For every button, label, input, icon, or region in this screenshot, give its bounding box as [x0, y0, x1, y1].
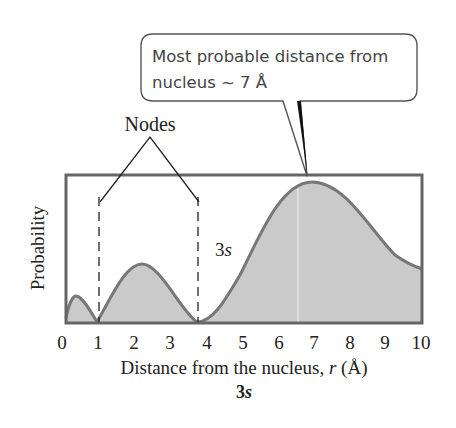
x-tick-7: 7 — [309, 332, 319, 353]
x-tick-10: 10 — [412, 332, 431, 353]
x-tick-9: 9 — [380, 332, 390, 353]
x-axis-ticks: 0 1 2 3 4 5 6 7 8 9 10 — [57, 332, 430, 353]
x-axis-label: Distance from the nucleus, r (Å) — [121, 357, 368, 379]
nodes-label: Nodes — [124, 113, 175, 135]
orbital-probability-figure: Nodes 3s Most probable distance from nuc… — [0, 0, 456, 428]
orbital-caption: 3s — [236, 382, 252, 402]
x-tick-2: 2 — [129, 332, 139, 353]
plot-area — [66, 175, 422, 323]
x-tick-6: 6 — [274, 332, 284, 353]
x-tick-4: 4 — [202, 332, 212, 353]
y-axis-label: Probability — [27, 205, 48, 290]
x-tick-1: 1 — [93, 332, 103, 353]
curve-label-3s: 3s — [215, 239, 232, 260]
probability-area-fill — [66, 182, 422, 323]
callout-line-2: nucleus ~ 7 Å — [152, 73, 268, 92]
x-tick-3: 3 — [165, 332, 175, 353]
most-probable-callout: Most probable distance from nucleus ~ 7 … — [141, 34, 417, 176]
nodes-annotation: Nodes — [100, 113, 199, 202]
x-tick-5: 5 — [238, 332, 248, 353]
callout-line-1: Most probable distance from — [152, 47, 388, 66]
x-tick-0: 0 — [57, 332, 67, 353]
nodes-pointer-lines — [100, 137, 199, 202]
x-tick-8: 8 — [345, 332, 355, 353]
